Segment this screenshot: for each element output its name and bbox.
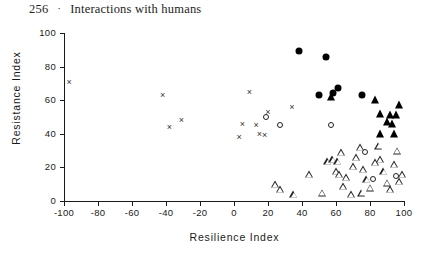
data-point-open-triangle [376,156,384,163]
data-point-cross: × [167,123,172,131]
x-axis-tick [166,202,167,206]
data-point-filled-triangle [371,96,379,104]
y-axis-tick-label: 60 [30,94,56,105]
y-axis-tick-label: 40 [30,128,56,139]
data-point-open-triangle [363,176,371,183]
data-point-filled-triangle [390,129,398,137]
scatter-chart-figure: -100-80-60-40-20020406080100020406080100… [0,0,432,259]
data-point-open-triangle [337,149,345,156]
x-axis-tick [268,202,269,206]
data-point-open-circle [370,176,376,182]
data-point-filled-circle [358,92,365,99]
data-point-open-triangle [318,189,326,196]
data-point-filled-triangle [395,101,403,109]
data-point-open-triangle [356,144,364,151]
data-point-open-triangle [352,154,360,161]
data-point-open-circle [263,114,269,120]
data-point-cross: × [289,103,294,111]
data-point-cross: × [240,120,245,128]
y-axis-tick [60,201,64,202]
y-axis-tick-label: 0 [30,195,56,206]
x-axis-title: Resilience Index [64,231,405,243]
data-point-filled-circle [316,92,323,99]
y-axis-tick-label: 100 [30,27,56,38]
plot-area: ×××××××××××× [64,33,404,201]
x-axis-tick [336,202,337,206]
data-point-open-triangle [347,191,355,198]
data-point-filled-triangle [327,92,335,100]
data-point-open-triangle [342,174,350,181]
data-point-filled-triangle [392,111,400,119]
data-point-filled-triangle [376,109,384,117]
x-axis-tick [200,202,201,206]
data-point-cross: × [179,116,184,124]
x-axis-tick [404,202,405,206]
data-point-filled-triangle [376,129,384,137]
data-point-open-triangle [290,191,298,198]
data-point-open-triangle [386,186,394,193]
x-axis-tick [64,202,65,206]
data-point-filled-circle [322,53,329,60]
x-axis-tick [132,202,133,206]
data-point-open-circle [277,122,283,128]
data-point-cross: × [66,78,71,86]
data-point-filled-circle [334,85,341,92]
data-point-open-triangle [276,186,284,193]
x-axis-tick [370,202,371,206]
data-point-open-triangle [395,177,403,184]
x-axis-tick [302,202,303,206]
data-point-open-triangle [334,157,342,164]
data-point-cross: × [262,131,267,139]
y-axis-title: Resistance Index [10,38,22,158]
data-point-cross: × [160,91,165,99]
x-axis-tick [98,202,99,206]
x-axis-tick-label: 100 [384,207,424,218]
data-point-open-triangle [366,184,374,191]
data-point-open-triangle [305,171,313,178]
data-point-open-triangle [380,167,388,174]
y-axis-tick-label: 20 [30,161,56,172]
data-point-cross: × [247,88,252,96]
data-point-open-triangle [358,189,366,196]
data-point-filled-triangle [388,119,396,127]
data-point-open-triangle [398,171,406,178]
data-point-open-triangle [339,182,347,189]
data-point-open-triangle [393,147,401,154]
y-axis-tick-label: 80 [30,61,56,72]
data-point-filled-circle [295,48,302,55]
data-point-open-triangle [359,166,367,173]
data-point-cross: × [236,133,241,141]
data-point-open-triangle [349,162,357,169]
x-axis-tick [234,202,235,206]
data-point-open-triangle [375,142,383,149]
data-point-open-triangle [390,161,398,168]
data-point-open-circle [328,122,334,128]
